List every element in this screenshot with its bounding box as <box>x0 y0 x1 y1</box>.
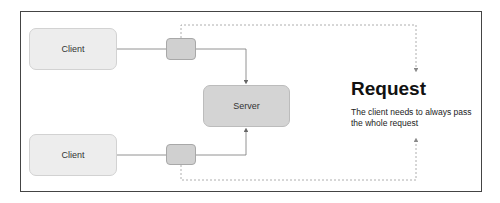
server-label: Server <box>233 101 260 111</box>
annotation-description: The client needs to always pass the whol… <box>351 107 481 129</box>
client-bottom-label: Client <box>61 150 84 160</box>
connector-box-top <box>166 38 196 60</box>
dashed-edge-top-to-annotation <box>181 25 416 70</box>
client-top-label: Client <box>61 44 84 54</box>
client-node-bottom: Client <box>29 134 117 176</box>
annotation-title: Request <box>351 78 426 100</box>
client-node-top: Client <box>29 28 117 70</box>
server-node: Server <box>203 85 290 127</box>
connector-box-bottom <box>166 144 196 165</box>
dashed-edge-bottom-to-annotation <box>181 140 416 180</box>
